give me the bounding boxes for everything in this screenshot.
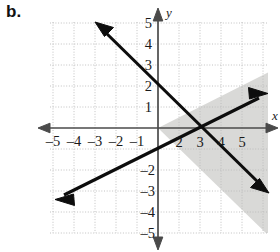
y-tick-label: –5 — [140, 225, 156, 241]
y-axis-arrow-up — [153, 8, 163, 21]
x-tick-label: –3 — [87, 133, 103, 149]
y-tick-label: –3 — [140, 183, 156, 199]
x-axis-arrow-right — [266, 123, 278, 133]
x-axis-arrow-left — [38, 123, 50, 133]
y-tick-label: 3 — [145, 57, 152, 73]
y-axis-label: y — [164, 5, 172, 20]
x-tick-label: 5 — [238, 134, 245, 150]
x-tick-label: –5 — [45, 133, 61, 149]
x-tick-label: –4 — [66, 133, 82, 149]
coordinate-graph: –5 –4 –3 –2 –1 2 3 4 5 5 4 3 2 1 –2 –3 –… — [0, 0, 280, 252]
y-tick-label: –4 — [140, 204, 156, 220]
y-tick-label: –2 — [140, 162, 156, 178]
y-tick-label: 1 — [145, 99, 152, 115]
falling-line-arrow-upper-left — [95, 22, 114, 37]
y-tick-label: 5 — [145, 15, 152, 31]
x-tick-label: –2 — [108, 133, 124, 149]
y-tick-label: 4 — [145, 36, 153, 52]
figure-page: b. — [0, 0, 280, 252]
x-tick-label: 2 — [175, 134, 182, 150]
x-tick-label: 3 — [196, 134, 203, 150]
y-tick-label: 2 — [145, 78, 152, 94]
x-tick-label: –1 — [129, 133, 145, 149]
x-tick-label: 4 — [217, 134, 225, 150]
x-axis-label: x — [271, 108, 278, 123]
